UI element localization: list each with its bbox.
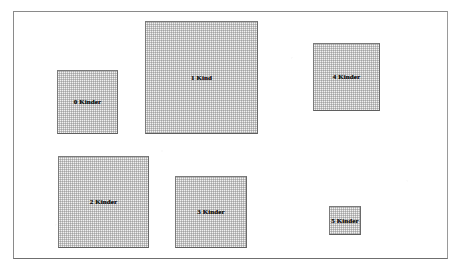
area-square-label: 4 Kinder — [333, 74, 360, 81]
area-square-5-kinder[interactable]: 5 Kinder — [329, 206, 361, 235]
area-square-0-kinder[interactable]: 0 Kinder — [57, 70, 118, 134]
area-square-3-kinder[interactable]: 3 Kinder — [175, 176, 247, 248]
area-square-2-kinder[interactable]: 2 Kinder — [58, 156, 149, 248]
area-square-label: 2 Kinder — [90, 199, 117, 206]
proportional-area-chart: 0 Kinder 1 Kind 2 Kinder 3 Kinder 4 Kind… — [0, 0, 463, 274]
area-square-label: 0 Kinder — [74, 99, 101, 106]
area-square-label: 1 Kind — [191, 74, 212, 81]
area-square-1-kind[interactable]: 1 Kind — [145, 21, 258, 134]
plot-frame: 0 Kinder 1 Kind 2 Kinder 3 Kinder 4 Kind… — [13, 11, 448, 259]
area-square-4-kinder[interactable]: 4 Kinder — [313, 43, 380, 111]
area-square-label: 5 Kinder — [331, 217, 358, 224]
area-square-label: 3 Kinder — [197, 209, 224, 216]
